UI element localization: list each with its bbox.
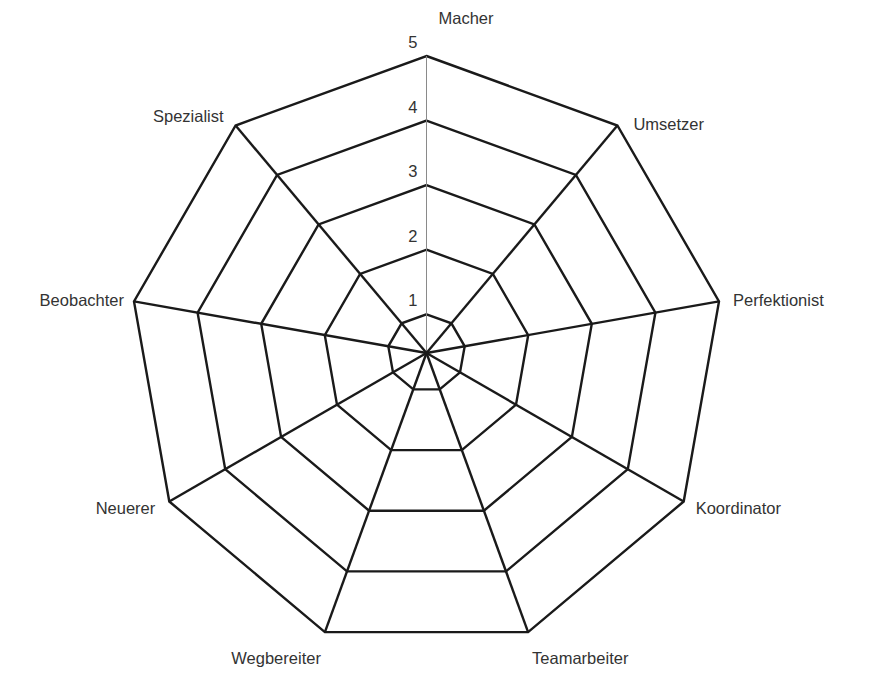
category-label-umsetzer: Umsetzer [633,115,704,133]
category-label-beobachter: Beobachter [40,291,125,309]
radial-tick-labels: 12345 [408,33,417,309]
tick-label-1: 1 [408,291,417,309]
spoke-wegbereiter [325,353,427,632]
tick-label-5: 5 [408,33,417,51]
category-label-spezialist: Spezialist [153,107,224,125]
spoke-beobachter [134,301,427,353]
category-label-teamarbeiter: Teamarbeiter [532,649,629,667]
tick-label-2: 2 [408,227,417,245]
category-label-koordinator: Koordinator [696,499,782,517]
spoke-perfektionist [427,301,720,353]
category-label-perfektionist: Perfektionist [733,291,824,309]
spoke-teamarbeiter [427,353,529,632]
category-labels: MacherUmsetzerPerfektionistKoordinatorTe… [40,9,825,667]
radar-chart: 12345 MacherUmsetzerPerfektionistKoordin… [0,0,875,688]
tick-label-4: 4 [408,98,417,116]
category-label-macher: Macher [439,9,495,27]
tick-label-3: 3 [408,162,417,180]
category-label-neuerer: Neuerer [96,499,156,517]
category-label-wegbereiter: Wegbereiter [231,649,321,667]
